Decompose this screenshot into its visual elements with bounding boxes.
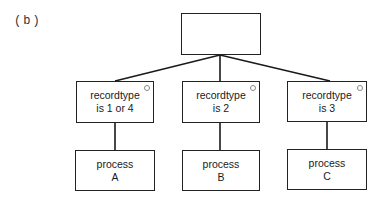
process-box-b: process B bbox=[182, 150, 260, 191]
condition-box-b: recordtype is 2 bbox=[182, 81, 260, 123]
condition-line2: is 1 or 4 bbox=[96, 102, 133, 115]
condition-line1: recordtype bbox=[90, 89, 140, 102]
selection-circle-icon bbox=[357, 85, 363, 91]
root-box bbox=[181, 13, 261, 55]
condition-line2: is 3 bbox=[319, 102, 335, 115]
process-box-a: process A bbox=[75, 150, 155, 191]
condition-box-a: recordtype is 1 or 4 bbox=[76, 81, 154, 123]
selection-circle-icon bbox=[250, 85, 256, 91]
condition-line1: recordtype bbox=[302, 89, 352, 102]
process-box-c: process C bbox=[287, 149, 367, 190]
process-line1: process bbox=[309, 157, 346, 170]
condition-box-c: recordtype is 3 bbox=[287, 81, 367, 122]
process-line2: C bbox=[323, 170, 331, 183]
selection-circle-icon bbox=[144, 85, 150, 91]
condition-line2: is 2 bbox=[213, 102, 229, 115]
process-line1: process bbox=[203, 158, 240, 171]
process-line1: process bbox=[97, 158, 134, 171]
condition-line1: recordtype bbox=[196, 89, 246, 102]
process-line2: A bbox=[111, 171, 118, 184]
process-line2: B bbox=[217, 171, 224, 184]
